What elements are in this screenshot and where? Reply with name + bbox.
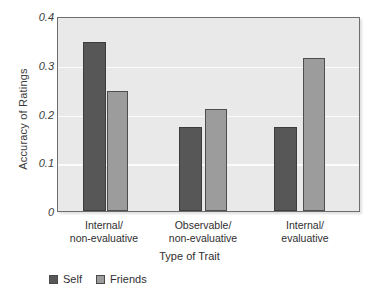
bar-friends-internal-non-evaluative xyxy=(107,91,128,211)
legend-label-friends: Friends xyxy=(110,273,147,285)
figure-container: Accuracy of Ratings 0.4 0.3 0.2 0.1 0 In… xyxy=(0,0,379,298)
plot-area xyxy=(57,17,360,212)
y-tick-label-0.1: 0.1 xyxy=(14,157,54,169)
x-tick-line1: Internal/ xyxy=(241,219,369,232)
bar-self-internal-non-evaluative xyxy=(83,42,106,211)
x-tick-line2: evaluative xyxy=(241,232,369,245)
bar-friends-internal-evaluative xyxy=(303,58,325,211)
legend-label-self: Self xyxy=(63,273,82,285)
bar-friends-observable-non-evaluative xyxy=(205,109,227,211)
legend-item-self: Self xyxy=(49,273,82,285)
y-tick-label-0.3: 0.3 xyxy=(14,60,54,72)
x-tick-label-group-3: Internal/ evaluative xyxy=(241,219,369,245)
x-axis-title: Type of Trait xyxy=(0,250,379,262)
legend-swatch-self-icon xyxy=(49,275,58,284)
chart-legend: Self Friends xyxy=(49,273,147,285)
y-tick-label-0: 0 xyxy=(14,206,54,218)
legend-item-friends: Friends xyxy=(96,273,147,285)
y-tick-label-0.2: 0.2 xyxy=(14,109,54,121)
bar-self-observable-non-evaluative xyxy=(179,127,202,211)
legend-swatch-friends-icon xyxy=(96,275,105,284)
bar-self-internal-evaluative xyxy=(274,127,297,211)
y-tick-label-0.4: 0.4 xyxy=(14,11,54,23)
